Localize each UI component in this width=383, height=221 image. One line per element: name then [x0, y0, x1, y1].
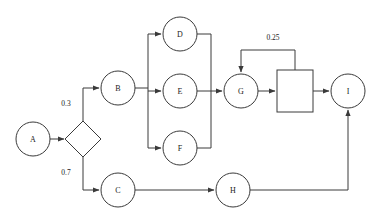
edge-label-label-0-7: 0.7 [61, 168, 71, 177]
node-d[interactable]: D [163, 17, 197, 51]
node-c[interactable]: C [101, 173, 135, 207]
node-label-d: D [177, 30, 183, 39]
node-label-b: B [115, 84, 120, 93]
edge-h-to-i [250, 110, 348, 190]
node-label-e: E [178, 87, 183, 96]
node-decision[interactable] [65, 121, 101, 157]
edge-label-label-0-3: 0.3 [61, 99, 71, 108]
node-label-i: I [347, 87, 350, 96]
node-box[interactable] [277, 70, 313, 112]
node-label-c: C [115, 186, 120, 195]
node-g[interactable]: G [224, 74, 258, 108]
node-label-h: H [230, 186, 236, 195]
node-h[interactable]: H [216, 173, 250, 207]
node-e[interactable]: E [163, 74, 197, 108]
node-label-g: G [238, 87, 244, 96]
node-f[interactable]: F [163, 131, 197, 165]
node-shape-diamond [65, 121, 101, 157]
edge-decision-to-b [83, 88, 99, 121]
flow-diagram: ABCDEFGHI 0.30.70.25 [0, 0, 383, 221]
edge-label-label-0-25: 0.25 [266, 33, 279, 42]
node-label-a: A [30, 135, 36, 144]
edge-box-feedback [241, 50, 295, 72]
edge-decision-to-c [83, 157, 99, 190]
nodes-layer: ABCDEFGHI [16, 17, 365, 207]
node-label-f: F [178, 144, 183, 153]
node-shape-square [277, 70, 313, 112]
flow-diagram-canvas: ABCDEFGHI 0.30.70.25 [0, 0, 383, 221]
node-i[interactable]: I [331, 74, 365, 108]
node-b[interactable]: B [101, 71, 135, 105]
node-a[interactable]: A [16, 122, 50, 156]
